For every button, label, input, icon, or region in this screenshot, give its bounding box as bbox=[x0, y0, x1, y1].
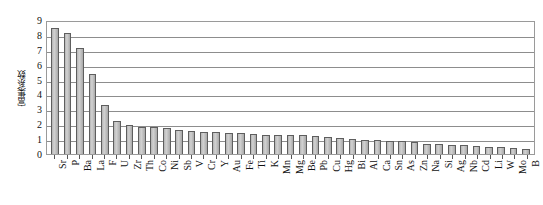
bar bbox=[225, 133, 233, 154]
x-label-slot: Th bbox=[135, 159, 147, 203]
x-label-slot: Al bbox=[359, 159, 371, 203]
x-label-slot: U bbox=[110, 159, 122, 203]
y-tick-label: 5 bbox=[37, 76, 42, 86]
bar bbox=[51, 28, 59, 154]
bar-slot bbox=[359, 22, 371, 154]
bar bbox=[188, 131, 196, 154]
bar-slot bbox=[371, 22, 383, 154]
x-label-slot: Ba bbox=[73, 159, 85, 203]
bar bbox=[497, 147, 505, 154]
bar bbox=[386, 141, 394, 154]
y-tick-label: 6 bbox=[37, 61, 42, 71]
bar-slot bbox=[470, 22, 482, 154]
bar bbox=[349, 139, 357, 154]
bar-slot bbox=[86, 22, 98, 154]
x-label-slot: As bbox=[396, 159, 408, 203]
bar bbox=[250, 134, 258, 154]
bar-slot bbox=[173, 22, 185, 154]
x-label-slot: V bbox=[185, 159, 197, 203]
x-label-slot: Ti bbox=[247, 159, 259, 203]
bar-slot bbox=[185, 22, 197, 154]
bar-slot bbox=[446, 22, 458, 154]
x-label-slot: Be bbox=[297, 159, 309, 203]
bar bbox=[374, 140, 382, 154]
x-label-slot: Mo bbox=[508, 159, 520, 203]
bar bbox=[212, 132, 220, 154]
bar-slot bbox=[148, 22, 160, 154]
bar bbox=[411, 142, 419, 154]
x-label-slot: Ag bbox=[446, 159, 458, 203]
x-label-slot: Mg bbox=[284, 159, 296, 203]
x-label-slot: Cd bbox=[471, 159, 483, 203]
bar bbox=[299, 135, 307, 154]
x-label-slot: B bbox=[521, 159, 533, 203]
y-tick-label: 3 bbox=[37, 105, 42, 115]
bar-slot bbox=[272, 22, 284, 154]
bar-slot bbox=[346, 22, 358, 154]
y-tick-label: 4 bbox=[37, 90, 42, 100]
bar bbox=[200, 132, 208, 154]
x-label-slot: Nb bbox=[458, 159, 470, 203]
bar-slot bbox=[433, 22, 445, 154]
x-label-slot: Sr bbox=[48, 159, 60, 203]
bar bbox=[237, 133, 245, 154]
bar bbox=[448, 145, 456, 154]
bar-slot bbox=[222, 22, 234, 154]
y-tick-label: 9 bbox=[37, 16, 42, 26]
bar bbox=[473, 146, 481, 154]
bar-slot bbox=[74, 22, 86, 154]
bar bbox=[150, 127, 158, 154]
bar bbox=[274, 135, 282, 154]
bar-slot bbox=[322, 22, 334, 154]
y-axis-tick-labels: 0123456789 bbox=[28, 15, 44, 155]
y-axis-title: 富集系数 bbox=[14, 38, 28, 138]
bar-slot bbox=[260, 22, 272, 154]
x-label-slot: Bi bbox=[347, 159, 359, 203]
x-label-slot: Ca bbox=[371, 159, 383, 203]
x-label-slot: K bbox=[259, 159, 271, 203]
x-label-slot: Y bbox=[210, 159, 222, 203]
x-label-slot: W bbox=[496, 159, 508, 203]
bar-slot bbox=[210, 22, 222, 154]
bar bbox=[522, 149, 530, 154]
bar bbox=[324, 137, 332, 154]
bar bbox=[287, 135, 295, 154]
y-tick-label: 8 bbox=[37, 31, 42, 41]
bars-container bbox=[47, 22, 534, 154]
x-label-slot: Ni bbox=[160, 159, 172, 203]
bar bbox=[101, 105, 109, 154]
x-label-slot: Hg bbox=[334, 159, 346, 203]
bar-slot bbox=[396, 22, 408, 154]
x-label-slot: Zn bbox=[409, 159, 421, 203]
bar-slot bbox=[408, 22, 420, 154]
x-label-slot: Mn bbox=[272, 159, 284, 203]
enrichment-coefficient-bar-chart: 富集系数 0123456789 SrPBaLaFUZrThCoNiSbVCrYA… bbox=[0, 0, 543, 205]
x-label-slot: Cu bbox=[322, 159, 334, 203]
bar-slot bbox=[136, 22, 148, 154]
x-axis-label: B bbox=[531, 160, 541, 167]
bar-slot bbox=[198, 22, 210, 154]
x-label-slot: Pb bbox=[309, 159, 321, 203]
x-label-slot: Sb bbox=[172, 159, 184, 203]
bar bbox=[423, 144, 431, 154]
bar bbox=[113, 121, 121, 155]
x-label-slot: Si bbox=[434, 159, 446, 203]
bar-slot bbox=[247, 22, 259, 154]
bar bbox=[64, 33, 72, 154]
bar bbox=[89, 74, 97, 154]
bar-slot bbox=[235, 22, 247, 154]
bar-slot bbox=[458, 22, 470, 154]
bar-slot bbox=[421, 22, 433, 154]
x-axis-category-labels: SrPBaLaFUZrThCoNiSbVCrYAuFeTiKMnMgBePbCu… bbox=[46, 159, 535, 203]
x-label-slot: Sn bbox=[384, 159, 396, 203]
bar bbox=[361, 140, 369, 154]
bar bbox=[485, 147, 493, 154]
bar bbox=[126, 125, 134, 154]
bar-slot bbox=[284, 22, 296, 154]
y-tick-label: 0 bbox=[37, 150, 42, 160]
bar-slot bbox=[507, 22, 519, 154]
bar-slot bbox=[334, 22, 346, 154]
x-label-slot: La bbox=[85, 159, 97, 203]
bar bbox=[435, 144, 443, 154]
bar-slot bbox=[309, 22, 321, 154]
